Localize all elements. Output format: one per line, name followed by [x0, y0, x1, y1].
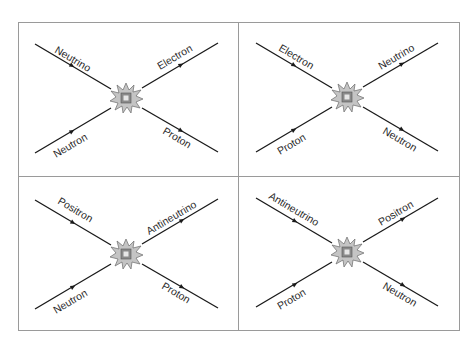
outgoing-upper-label: Antineutrino — [144, 198, 198, 237]
arrow-icon — [178, 62, 185, 68]
incoming-upper-label: Positron — [56, 194, 95, 224]
panel-bottom-left: Positron Neutron Antineutrino Proton — [35, 194, 218, 315]
collision-burst-icon — [331, 82, 364, 112]
panel-bottom-right: Antineutrino Proton Positron Neutron — [256, 189, 438, 311]
collision-burst-icon — [331, 237, 364, 267]
collision-burst-icon — [110, 239, 143, 269]
arrow-icon — [292, 218, 299, 224]
incoming-lower-label: Proton — [275, 286, 308, 312]
particle-interaction-diagram: Neutrino Neutron Electron Proton Electro… — [0, 0, 476, 343]
incoming-lower-label: Proton — [275, 131, 308, 157]
panel-top-left: Neutrino Neutron Electron Proton — [35, 42, 218, 160]
collision-burst-icon — [110, 83, 143, 113]
outgoing-upper-label: Electron — [155, 42, 194, 72]
panel-top-right: Electron Proton Neutrino Neutron — [256, 41, 438, 157]
incoming-lower-label: Neutron — [51, 286, 89, 315]
incoming-lower-label: Neutron — [51, 130, 89, 159]
